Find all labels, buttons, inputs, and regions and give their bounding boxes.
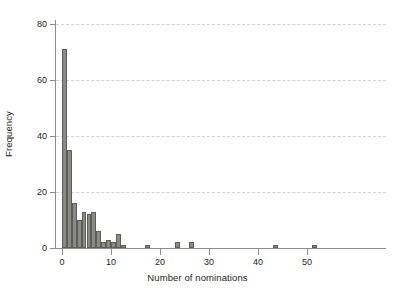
y-axis-line	[55, 20, 56, 249]
x-tick-0	[62, 249, 63, 255]
x-tick-50	[307, 249, 308, 255]
y-tick-label-0: 0	[42, 244, 47, 253]
x-tick-label-30: 30	[194, 258, 224, 267]
gridline-y-80	[56, 24, 386, 25]
x-tick-label-0: 0	[47, 258, 77, 267]
x-tick-40	[258, 249, 259, 255]
y-tick-20	[50, 192, 56, 193]
x-tick-label-20: 20	[145, 258, 175, 267]
gridline-y-60	[56, 80, 386, 81]
x-axis-line	[55, 248, 386, 249]
y-tick-40	[50, 136, 56, 137]
x-tick-30	[209, 249, 210, 255]
y-tick-80	[50, 24, 56, 25]
x-tick-label-10: 10	[96, 258, 126, 267]
y-tick-60	[50, 80, 56, 81]
x-tick-label-40: 40	[243, 258, 273, 267]
y-tick-0	[50, 248, 56, 249]
histogram-figure: 020406080 01020304050 Number of nominati…	[0, 0, 395, 294]
x-axis-title: Number of nominations	[0, 272, 395, 283]
gridline-y-40	[56, 136, 386, 137]
x-tick-10	[111, 249, 112, 255]
plot-area: 020406080 01020304050	[0, 0, 395, 294]
x-tick-label-50: 50	[292, 258, 322, 267]
y-tick-label-20: 20	[37, 188, 47, 197]
y-tick-label-40: 40	[37, 132, 47, 141]
y-tick-label-80: 80	[37, 20, 47, 29]
x-tick-20	[160, 249, 161, 255]
y-tick-label-60: 60	[37, 76, 47, 85]
gridline-y-20	[56, 192, 386, 193]
y-axis-title: Frequency	[3, 111, 14, 157]
